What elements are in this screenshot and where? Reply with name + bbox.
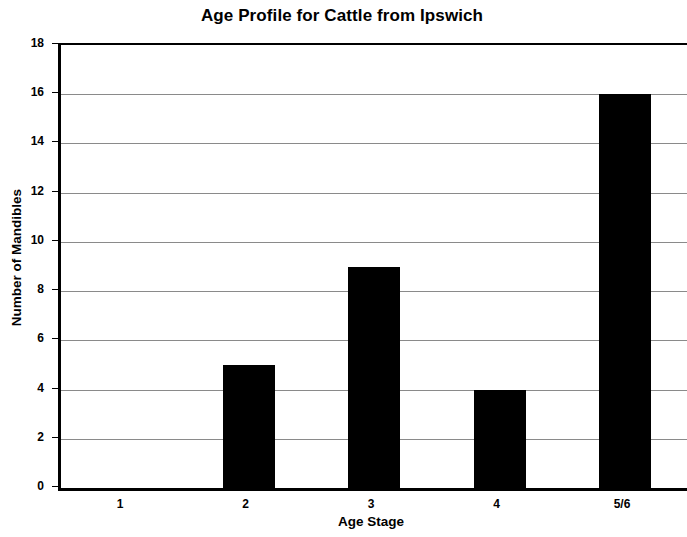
y-tick-label: 14 <box>0 135 44 147</box>
x-tick-label: 2 <box>206 498 286 510</box>
y-tick-label: 8 <box>0 283 44 295</box>
gridline <box>61 242 687 243</box>
y-tick-mark <box>52 141 58 142</box>
gridline <box>61 143 687 144</box>
y-tick-mark <box>52 92 58 93</box>
y-tick-mark <box>52 191 58 192</box>
gridline <box>61 193 687 194</box>
x-tick-label: 1 <box>80 498 160 510</box>
y-tick-mark <box>52 388 58 389</box>
x-tick-label: 3 <box>331 498 411 510</box>
plot-area <box>58 43 687 491</box>
gridline <box>61 94 687 95</box>
x-tick-label: 5/6 <box>582 498 662 510</box>
y-tick-label: 12 <box>0 185 44 197</box>
y-tick-label: 4 <box>0 382 44 394</box>
y-tick-mark <box>52 338 58 339</box>
bar <box>348 267 400 489</box>
y-tick-mark <box>52 289 58 290</box>
y-tick-label: 6 <box>0 332 44 344</box>
bar <box>223 365 275 488</box>
y-tick-label: 18 <box>0 37 44 49</box>
y-tick-mark <box>52 240 58 241</box>
y-tick-label: 10 <box>0 234 44 246</box>
y-tick-label: 16 <box>0 86 44 98</box>
bar <box>599 94 651 488</box>
y-tick-mark <box>52 43 58 44</box>
y-tick-label: 0 <box>0 480 44 492</box>
x-axis-title: Age Stage <box>58 514 684 529</box>
x-tick-label: 4 <box>457 498 537 510</box>
y-tick-mark <box>52 486 58 487</box>
y-tick-mark <box>52 437 58 438</box>
chart-title: Age Profile for Cattle from Ipswich <box>0 6 684 26</box>
y-tick-label: 2 <box>0 431 44 443</box>
bar <box>474 390 526 488</box>
